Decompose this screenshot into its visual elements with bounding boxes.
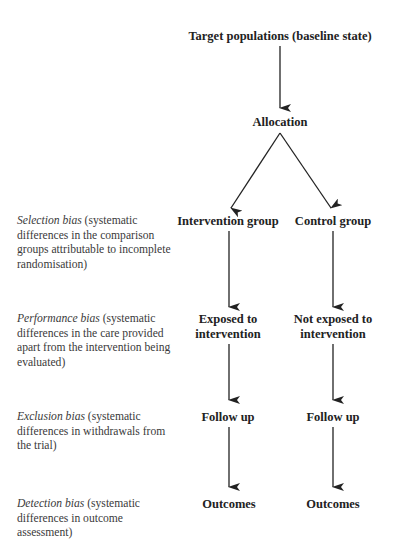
bias-performance: Performance bias (systematic differences… <box>17 312 177 370</box>
bias-selection: Selection bias (systematic differences i… <box>17 214 177 272</box>
node-follow-up-intervention: Follow up <box>201 410 254 425</box>
node-target-populations: Target populations (baseline state) <box>188 29 371 44</box>
node-allocation: Allocation <box>253 115 308 130</box>
node-not-exposed-to-intervention: Not exposed to intervention <box>294 312 372 342</box>
node-intervention-group: Intervention group <box>177 214 279 229</box>
bias-performance-name: Performance bias <box>17 312 100 325</box>
node-outcomes-control: Outcomes <box>306 497 359 512</box>
node-not-exposed-line1: Not exposed to <box>294 312 372 327</box>
node-exposed-line1: Exposed to <box>195 312 260 327</box>
node-outcomes-intervention: Outcomes <box>202 497 255 512</box>
bias-selection-name: Selection bias <box>17 214 82 227</box>
node-control-group: Control group <box>295 214 371 229</box>
node-exposed-to-intervention: Exposed to intervention <box>195 312 260 342</box>
arrow-allocation-to-intervention <box>231 133 280 208</box>
bias-exclusion: Exclusion bias (systematic differences i… <box>17 410 177 454</box>
node-follow-up-control: Follow up <box>306 410 359 425</box>
node-not-exposed-line2: intervention <box>294 327 372 342</box>
bias-detection-name: Detection bias <box>17 497 84 510</box>
diagram-arrows <box>0 0 396 551</box>
node-exposed-line2: intervention <box>195 327 260 342</box>
bias-exclusion-name: Exclusion bias <box>17 410 85 423</box>
arrow-allocation-to-control <box>280 133 331 208</box>
bias-detection: Detection bias (systematic differences i… <box>17 497 177 541</box>
